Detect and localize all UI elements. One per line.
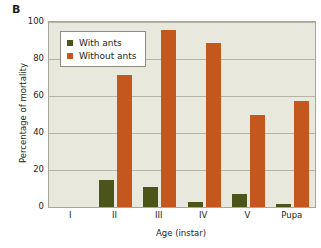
- bar: [232, 194, 247, 207]
- legend-label: Without ants: [79, 51, 136, 61]
- y-axis-tick: 40: [12, 128, 44, 137]
- legend-item: With ants: [67, 36, 136, 49]
- y-axis-tick: 20: [12, 165, 44, 174]
- x-axis-tick: II: [92, 210, 136, 220]
- y-axis-tick: 100: [12, 17, 44, 26]
- bar: [206, 43, 221, 207]
- x-axis-tick: V: [225, 210, 269, 220]
- y-axis-tick: 60: [12, 91, 44, 100]
- legend-item: Without ants: [67, 49, 136, 62]
- legend-label: With ants: [79, 38, 122, 48]
- bar: [117, 75, 132, 207]
- x-axis-tick-labels: IIIIIIIVVPupa: [48, 210, 314, 220]
- bar-group: [271, 22, 315, 207]
- bar: [99, 180, 114, 207]
- x-axis-label: Age (instar): [48, 228, 314, 238]
- bar-group: [226, 22, 270, 207]
- x-axis-tick: I: [48, 210, 92, 220]
- figure-panel-b: B Percentage of mortality 020406080100 W…: [0, 0, 321, 248]
- bar: [276, 204, 291, 207]
- legend-swatch-icon: [67, 40, 73, 46]
- x-axis-tick: Pupa: [270, 210, 314, 220]
- x-axis-tick: III: [137, 210, 181, 220]
- bar: [188, 202, 203, 207]
- bar: [143, 187, 158, 207]
- legend-swatch-icon: [67, 53, 73, 59]
- y-axis-tick-labels: 020406080100: [12, 15, 44, 211]
- y-axis-tick: 0: [12, 202, 44, 211]
- bar-group: [182, 22, 226, 207]
- bar: [250, 115, 265, 208]
- y-axis-tick: 80: [12, 54, 44, 63]
- legend: With antsWithout ants: [60, 31, 146, 67]
- bar: [161, 30, 176, 207]
- x-axis-tick: IV: [181, 210, 225, 220]
- bar: [294, 101, 309, 207]
